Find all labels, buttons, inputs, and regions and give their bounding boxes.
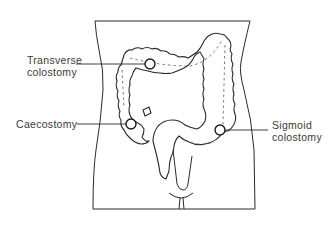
colostomy-diagram: Transverse colostomy Caecostomy Sigmoid … — [0, 0, 334, 227]
label-transverse-line2: colostomy — [27, 66, 82, 78]
label-transverse-colostomy: Transverse colostomy — [27, 54, 82, 78]
label-transverse-line1: Transverse — [27, 54, 82, 66]
anal-canal-curve — [169, 193, 193, 198]
stoma-sigmoid-icon — [215, 125, 225, 135]
label-sigmoid-colostomy: Sigmoid colostomy — [272, 119, 322, 143]
label-caecostomy: Caecostomy — [16, 118, 77, 130]
anatomy-drawing — [0, 0, 334, 227]
label-caecostomy-line1: Caecostomy — [16, 118, 77, 130]
label-sigmoid-line2: colostomy — [272, 131, 322, 143]
appendix — [143, 107, 151, 116]
label-sigmoid-line1: Sigmoid — [272, 119, 322, 131]
stoma-transverse-icon — [145, 59, 155, 69]
anal-canal — [179, 198, 184, 209]
stoma-caecostomy-icon — [126, 119, 136, 129]
rectum — [173, 150, 192, 190]
colon — [116, 33, 235, 179]
